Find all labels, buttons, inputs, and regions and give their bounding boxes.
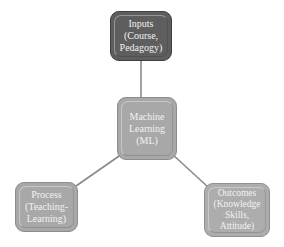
node-outcomes-label: Outcomes (Knowledge Skills, Attitude) [212,188,263,232]
edge-ml-process [76,154,122,186]
node-inputs: Inputs (Course, Pedagogy) [110,11,172,61]
node-inputs-label: Inputs (Course, Pedagogy) [118,18,165,54]
edge-ml-outcomes [172,154,208,187]
node-machine-learning-label: Machine Learning (ML) [127,111,167,147]
diagram-canvas: Inputs (Course, Pedagogy) Machine Learni… [0,0,284,247]
node-process-label: Process (Teaching- Learning) [23,189,70,225]
node-process: Process (Teaching- Learning) [15,182,78,232]
node-machine-learning: Machine Learning (ML) [117,97,177,160]
node-outcomes: Outcomes (Knowledge Skills, Attitude) [204,183,270,237]
